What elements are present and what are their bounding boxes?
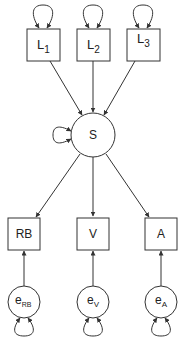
self-loop-erb	[15, 318, 34, 336]
node-rb: RB	[8, 218, 40, 250]
path-diagram: L1 L2 L3 S RB V A eRB eV eA	[0, 0, 186, 342]
node-l2: L2	[77, 29, 110, 61]
edge-l1-to-s	[50, 61, 82, 115]
node-a: A	[145, 218, 177, 250]
edge-s-to-a	[106, 154, 149, 217]
self-loop-ev	[84, 318, 103, 336]
self-loop-l2	[83, 5, 102, 28]
self-loop-ea	[152, 318, 171, 336]
node-ev: eV	[77, 286, 109, 318]
svg-text:A: A	[157, 227, 165, 241]
node-l1: L1	[27, 29, 60, 61]
edge-l3-to-s	[104, 61, 135, 115]
svg-text:S: S	[89, 128, 97, 142]
node-s: S	[71, 113, 115, 157]
self-loop-l1	[33, 5, 52, 28]
node-v: V	[77, 218, 109, 250]
svg-text:RB: RB	[16, 227, 33, 241]
node-l3: L3	[127, 29, 160, 61]
edge-s-to-rb	[36, 154, 80, 217]
self-loop-s	[53, 127, 71, 143]
svg-text:V: V	[89, 227, 97, 241]
node-erb: eRB	[8, 286, 40, 318]
node-ea: eA	[145, 286, 177, 318]
self-loop-l3	[133, 5, 152, 28]
